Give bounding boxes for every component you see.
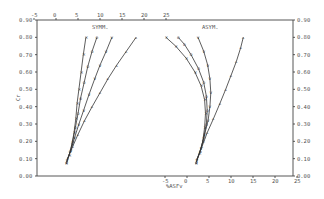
data-point-marker: ο (77, 111, 80, 116)
chart-canvas: 0.000.100.200.300.400.500.600.700.800.90… (0, 0, 324, 199)
data-point-marker: × (165, 35, 169, 40)
x-tick-label: 0 (184, 178, 187, 184)
data-point-marker: ▵ (224, 87, 227, 92)
y-tick-label: 0.30 (297, 121, 310, 127)
data-point-marker: v (105, 49, 108, 54)
data-point-marker: v (88, 92, 91, 97)
x-tick-label: 25 (163, 12, 170, 18)
data-point-marker: × (80, 70, 84, 75)
x-tick-label: 20 (272, 178, 279, 184)
data-point-marker: ▵ (219, 101, 222, 106)
x-tick-label: 15 (250, 178, 257, 184)
data-point-marker: ο (183, 42, 186, 47)
x-axis-title: %ASFv (166, 183, 183, 189)
x-tick-label: 20 (141, 12, 148, 18)
data-point-marker: ο (96, 35, 99, 40)
data-point-marker: ο (177, 35, 180, 40)
data-point-marker: ο (83, 80, 86, 85)
data-point-marker: v (209, 76, 212, 81)
top-x-tick-labels: -50510152025 (31, 12, 170, 20)
data-point-marker: v (206, 63, 209, 68)
data-point-marker: ο (202, 80, 205, 85)
x-tick-label: -5 (31, 12, 38, 18)
x-tick-label: 10 (97, 12, 104, 18)
y-tick-label: 0.50 (297, 86, 310, 92)
data-point-marker: v (93, 76, 96, 81)
series-line-S3 (67, 37, 112, 160)
data-point-marker: v (111, 35, 114, 40)
data-point-marker: ▵ (201, 144, 204, 149)
data-point-marker: ▵ (230, 73, 233, 78)
data-point-marker: × (85, 35, 89, 40)
asym-curves: ×××××××××××οοοοοοοοοοοvvvvvvvvvv▵▵▵▵▵▵▵▵… (165, 35, 245, 167)
y-tick-label: 0.80 (19, 34, 32, 40)
y-tick-label: 0.20 (19, 138, 32, 144)
left-y-tick-labels: 0.000.100.200.300.400.500.600.700.800.90 (19, 17, 37, 179)
data-point-marker: ▵ (242, 35, 245, 40)
y-tick-label: 0.20 (297, 138, 310, 144)
data-point-marker: × (82, 52, 86, 57)
y-tick-label: 0.70 (19, 52, 32, 58)
data-point-marker: ο (190, 52, 193, 57)
y-tick-label: 0.40 (19, 104, 32, 110)
data-point-marker: × (185, 56, 189, 61)
x-tick-label: 10 (228, 178, 235, 184)
y-tick-label: 0.10 (297, 156, 310, 162)
data-point-marker: v (209, 104, 212, 109)
x-tick-label: 5 (75, 12, 78, 18)
data-point-marker: v (209, 90, 212, 95)
x-tick-label: 15 (119, 12, 126, 18)
x-tick-label: 25 (294, 178, 301, 184)
data-point-marker: ▵ (206, 130, 209, 135)
data-point-marker: ο (205, 94, 208, 99)
y-tick-label: 0.40 (297, 104, 310, 110)
data-point-marker: ο (91, 49, 94, 54)
y-tick-label: 0.90 (297, 17, 310, 23)
data-point-marker: ▵ (212, 116, 215, 121)
x-tick-label: 5 (206, 178, 209, 184)
right-y-tick-labels: 0.000.100.200.300.400.500.600.700.800.90 (293, 17, 310, 179)
data-point-marker: ο (86, 64, 89, 69)
x-tick-label: 0 (53, 12, 56, 18)
y-axis-title: Cr (15, 94, 21, 101)
data-point-marker: ▵ (235, 59, 238, 64)
data-point-marker: v (197, 35, 200, 40)
data-point-marker: v (207, 118, 210, 123)
data-point-marker: ο (197, 66, 200, 71)
y-tick-label: 0.60 (297, 69, 310, 75)
asym-panel-title: ASYM. (202, 24, 219, 30)
symm-curves: ××××××××××οοοοοοοοοοvvvvvvvvvv▵▵▵▵▵▵▵▵▵▵ (65, 35, 138, 167)
y-tick-label: 0.10 (19, 156, 32, 162)
data-point-marker: v (78, 122, 81, 127)
y-tick-label: 0.70 (297, 52, 310, 58)
data-point-marker: ▵ (135, 35, 138, 40)
bottom-x-tick-labels: -50510152025 (162, 176, 301, 184)
data-point-marker: × (174, 44, 178, 49)
data-point-marker: v (202, 49, 205, 54)
y-tick-label: 0.60 (19, 69, 32, 75)
data-point-marker: v (99, 63, 102, 68)
y-tick-label: 0.00 (19, 173, 32, 179)
y-tick-label: 0.30 (19, 121, 32, 127)
data-point-marker: v (82, 108, 85, 113)
data-point-marker: ο (79, 96, 82, 101)
y-tick-label: 0.50 (19, 86, 32, 92)
data-point-marker: × (78, 87, 82, 92)
data-point-marker: ▵ (239, 45, 242, 50)
y-tick-label: 0.80 (297, 34, 310, 40)
symm-panel-title: SYMM. (92, 24, 109, 30)
